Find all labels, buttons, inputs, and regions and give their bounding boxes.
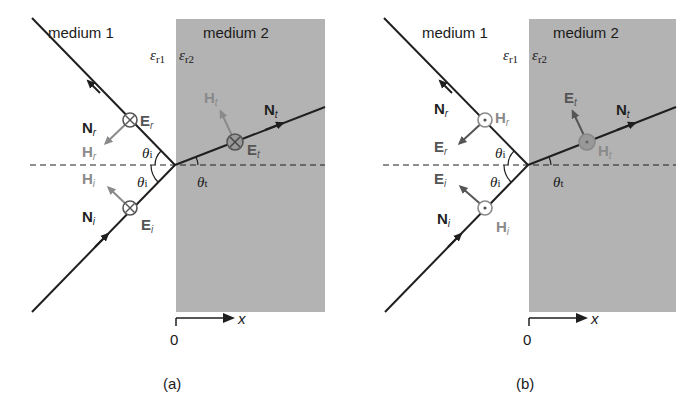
e-r-label: Er: [140, 112, 154, 131]
h-i-label: Hi: [496, 218, 510, 237]
h-i-out-of-page-icon: [478, 201, 492, 215]
e-i-into-page-icon: [123, 201, 137, 215]
x-axis-indicator: [529, 313, 588, 326]
epsilon-r1-label: εr1: [150, 47, 165, 65]
h-r-label: Hr: [495, 109, 510, 128]
panel-a-caption: (a): [163, 375, 181, 392]
theta-t-label: θt: [553, 174, 563, 190]
medium-2-label: medium 2: [553, 24, 619, 41]
n-i-label: Ni: [82, 208, 96, 227]
e-i-label: Ei: [434, 170, 447, 189]
e-r-into-page-icon: [123, 113, 137, 127]
theta-t-label: θt: [197, 174, 207, 190]
x-axis-origin: 0: [523, 331, 531, 348]
epsilon-r1-label: εr1: [503, 47, 518, 65]
e-t-into-page-icon: [227, 134, 243, 150]
theta-i-upper-arc: [155, 151, 161, 165]
h-r-label: Hr: [82, 143, 97, 162]
theta-i-upper-arc: [508, 151, 514, 165]
n-r-label: Nr: [82, 119, 97, 138]
medium-1-label: medium 1: [422, 24, 488, 41]
h-t-out-of-page-icon: [579, 134, 595, 150]
theta-i-upper-label: θi: [495, 145, 505, 161]
x-axis-indicator: [176, 313, 235, 326]
n-i-label: Ni: [437, 210, 451, 229]
medium-1-label: medium 1: [48, 24, 114, 41]
x-axis-origin: 0: [170, 331, 178, 348]
incident-ray-arrow: [95, 234, 108, 247]
n-r-label: Nr: [434, 100, 449, 119]
h-i-label: Hi: [82, 170, 96, 189]
theta-i-lower-label: θi: [137, 174, 147, 190]
theta-i-upper-label: θi: [142, 145, 152, 161]
panel-b: medium 1 medium 2 εr1 εr2 θi θi θt: [383, 18, 676, 392]
medium-2-label: medium 2: [203, 24, 269, 41]
panel-a: medium 1 medium 2 εr1 εr2 θi θi θt: [30, 18, 325, 392]
e-i-label: Ei: [141, 216, 154, 235]
theta-i-lower-label: θi: [490, 174, 500, 190]
theta-i-lower-arc: [504, 165, 511, 182]
h-r-out-of-page-icon: [478, 113, 492, 127]
x-axis-label: x: [590, 310, 599, 327]
e-r-label: Er: [434, 138, 448, 157]
panel-b-caption: (b): [516, 375, 534, 392]
incident-ray-arrow: [448, 234, 461, 247]
x-axis-label: x: [237, 310, 246, 327]
theta-i-lower-arc: [151, 165, 158, 182]
